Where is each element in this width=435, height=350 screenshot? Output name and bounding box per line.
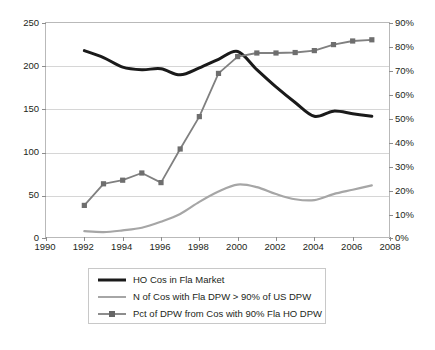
x-axis-tick-label: 1992 xyxy=(63,242,103,252)
legend-label: HO Cos in Fla Market xyxy=(133,274,224,286)
y-axis-tick-label: 250 xyxy=(7,18,39,28)
y2-axis-tick-label: 20% xyxy=(395,186,431,196)
legend-swatch-gray-line-with-marker xyxy=(97,306,127,322)
legend-entry-pct-dpw: Pct of DPW from Cos with 90% Fla HO DPW xyxy=(97,306,322,322)
series-line-n-of-cos xyxy=(84,184,372,232)
x-axis-tick-label: 2000 xyxy=(217,242,257,252)
x-axis-tick-label: 1998 xyxy=(178,242,218,252)
y2-axis-tick-label: 30% xyxy=(395,162,431,172)
series-line-pct-dpw xyxy=(84,40,372,206)
legend-entry-n-of-cos: N of Cos with Fla DPW > 90% of US DPW xyxy=(97,289,322,305)
legend-label: Pct of DPW from Cos with 90% Fla HO DPW xyxy=(133,308,322,320)
x-axis-tick-label: 1996 xyxy=(140,242,180,252)
y2-axis-tick-label: 40% xyxy=(395,138,431,148)
x-axis-tick-label: 2006 xyxy=(332,242,372,252)
y2-axis-tick-label: 90% xyxy=(395,18,431,28)
legend-swatch-thin-gray-line xyxy=(97,289,127,305)
chart-figure: 250 200 150 100 50 0 90% 80% 70% 60% 50%… xyxy=(0,0,435,350)
y2-axis-tick-label: 50% xyxy=(395,114,431,124)
chart-legend: HO Cos in Fla Market N of Cos with Fla D… xyxy=(88,268,326,324)
y2-axis-tick-label: 70% xyxy=(395,66,431,76)
legend-label: N of Cos with Fla DPW > 90% of US DPW xyxy=(133,291,311,303)
legend-swatch-thick-black-line xyxy=(97,272,127,288)
y-axis-tick-label: 150 xyxy=(7,104,39,114)
y-axis-tick-label: 100 xyxy=(7,147,39,157)
y2-axis-tick-label: 10% xyxy=(395,210,431,220)
x-axis-tick-label: 1990 xyxy=(25,242,65,252)
series-markers-pct-dpw xyxy=(82,37,375,208)
x-axis-tick-label: 2002 xyxy=(255,242,295,252)
y2-axis-tick-label: 80% xyxy=(395,42,431,52)
y-axis-tick-label: 50 xyxy=(7,190,39,200)
x-axis-tick-label: 1994 xyxy=(102,242,142,252)
y-axis-tick-label: 200 xyxy=(7,61,39,71)
series-line-ho-cos xyxy=(84,51,372,117)
x-axis-tick-label: 2008 xyxy=(370,242,410,252)
data-series-layer xyxy=(46,23,391,239)
x-axis-tick-label: 2004 xyxy=(293,242,333,252)
legend-entry-ho-cos: HO Cos in Fla Market xyxy=(97,272,322,288)
y2-axis-tick-label: 60% xyxy=(395,90,431,100)
plot-area xyxy=(45,22,390,238)
chart-canvas: 250 200 150 100 50 0 90% 80% 70% 60% 50%… xyxy=(0,0,435,262)
